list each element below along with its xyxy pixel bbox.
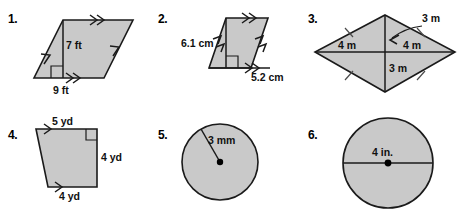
problem-1-base-label: 9 ft bbox=[53, 85, 69, 96]
problem-5-radius-label: 3 mm bbox=[208, 135, 235, 146]
problem-2-height-label: 6.1 cm bbox=[181, 38, 214, 49]
problem-1: 1. 7 ft 9 ft bbox=[0, 0, 150, 110]
problem-2-base-label: 5.2 cm bbox=[251, 72, 284, 83]
trapezoid-outline bbox=[36, 129, 97, 187]
problem-4-height-label: 4 yd bbox=[101, 152, 122, 163]
problem-3-left-diagonal-label: 4 m bbox=[338, 40, 356, 51]
problem-5: 5. 3 mm bbox=[150, 110, 300, 220]
problem-6-figure bbox=[300, 110, 472, 220]
problem-4-top-base-label: 5 yd bbox=[52, 116, 73, 127]
problem-3: 3. 3 m 4 m 4 m 3 m bbox=[300, 0, 472, 110]
problem-5-figure bbox=[150, 110, 300, 220]
side-tick-lower-left bbox=[345, 71, 353, 80]
problem-1-figure bbox=[0, 0, 150, 110]
center-dot bbox=[385, 160, 392, 167]
problem-1-height-label: 7 ft bbox=[66, 40, 82, 51]
problem-2: 2. 6.1 cm 5.2 cm bbox=[150, 0, 300, 110]
problem-3-figure bbox=[300, 0, 472, 110]
problem-4-bottom-base-label: 4 yd bbox=[59, 191, 80, 202]
problem-4-figure bbox=[0, 110, 150, 220]
problem-3-right-diagonal-label: 4 m bbox=[403, 40, 421, 51]
problem-4: 4. 5 yd 4 yd 4 yd bbox=[0, 110, 150, 220]
problem-6: 6. 4 in. bbox=[300, 110, 472, 220]
problem-6-diameter-label: 4 in. bbox=[372, 147, 393, 158]
center-dot bbox=[217, 159, 223, 165]
problem-2-figure bbox=[150, 0, 300, 110]
geometry-worksheet: 1. 7 ft 9 ft 2. bbox=[0, 0, 472, 220]
problem-3-lower-diagonal-label: 3 m bbox=[389, 63, 407, 74]
problem-3-upper-diagonal-label: 3 m bbox=[422, 13, 440, 24]
